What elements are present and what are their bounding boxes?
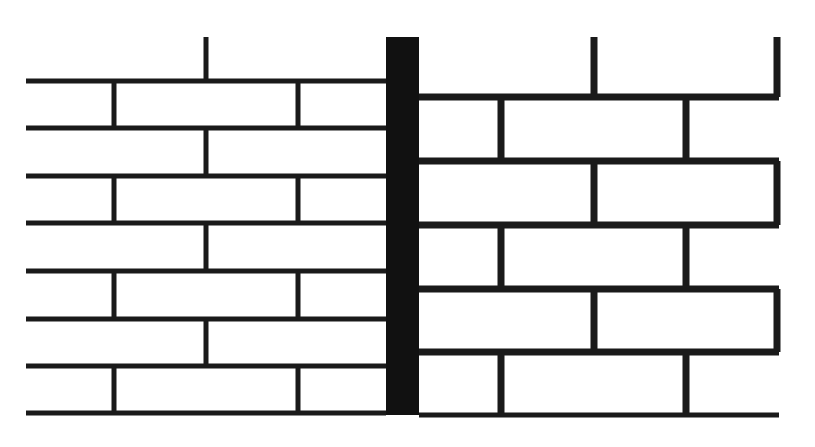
top-joint-stub xyxy=(774,37,781,97)
head-joint xyxy=(591,289,598,352)
head-joint xyxy=(204,223,209,271)
head-joint xyxy=(112,366,117,413)
central-pier xyxy=(386,37,419,415)
head-joint xyxy=(774,289,781,352)
head-joint xyxy=(112,271,117,319)
bed-joint xyxy=(419,349,779,356)
bed-joint xyxy=(419,158,779,165)
head-joint xyxy=(112,176,117,223)
head-joint xyxy=(296,81,301,128)
brick-wall-diagram xyxy=(0,0,815,447)
bed-joint xyxy=(419,286,779,293)
bed-joint xyxy=(26,411,386,416)
head-joint xyxy=(683,352,690,415)
head-joint xyxy=(591,161,598,225)
top-joint-stub xyxy=(591,37,598,97)
head-joint xyxy=(204,319,209,366)
head-joint xyxy=(498,352,505,415)
head-joint xyxy=(774,161,781,225)
head-joint xyxy=(112,81,117,128)
bed-joint xyxy=(26,79,386,84)
bed-joint xyxy=(419,222,779,229)
head-joint xyxy=(296,271,301,319)
head-joint xyxy=(683,97,690,161)
head-joint xyxy=(498,225,505,289)
head-joint xyxy=(683,225,690,289)
bed-joint xyxy=(419,413,779,418)
head-joint xyxy=(498,97,505,161)
head-joint xyxy=(204,128,209,176)
bed-joint xyxy=(419,94,779,101)
top-joint-stub xyxy=(204,37,209,81)
head-joint xyxy=(296,176,301,223)
head-joint xyxy=(296,366,301,413)
